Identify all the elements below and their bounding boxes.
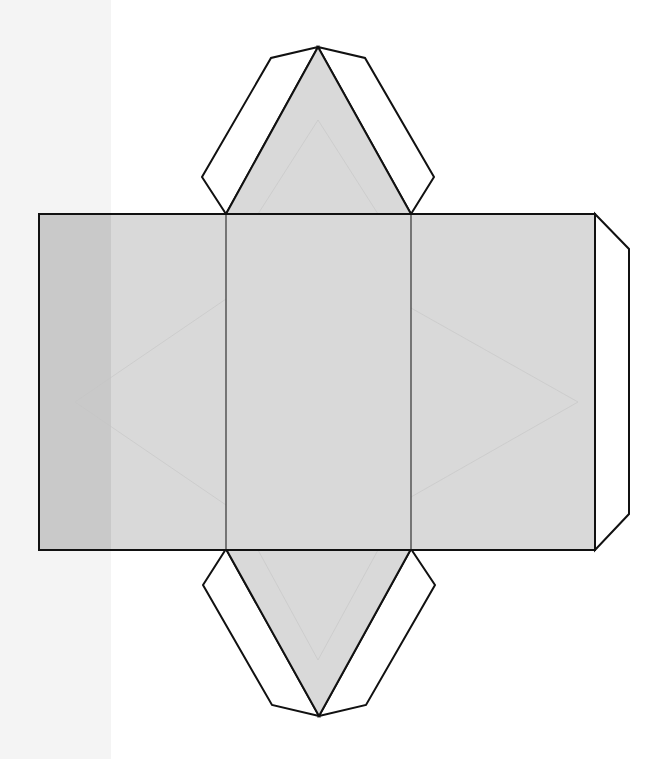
right-glue-tab (595, 214, 629, 550)
rectangular-faces (39, 214, 595, 550)
prism-net-diagram (0, 0, 664, 759)
overlay-strip (39, 214, 111, 550)
